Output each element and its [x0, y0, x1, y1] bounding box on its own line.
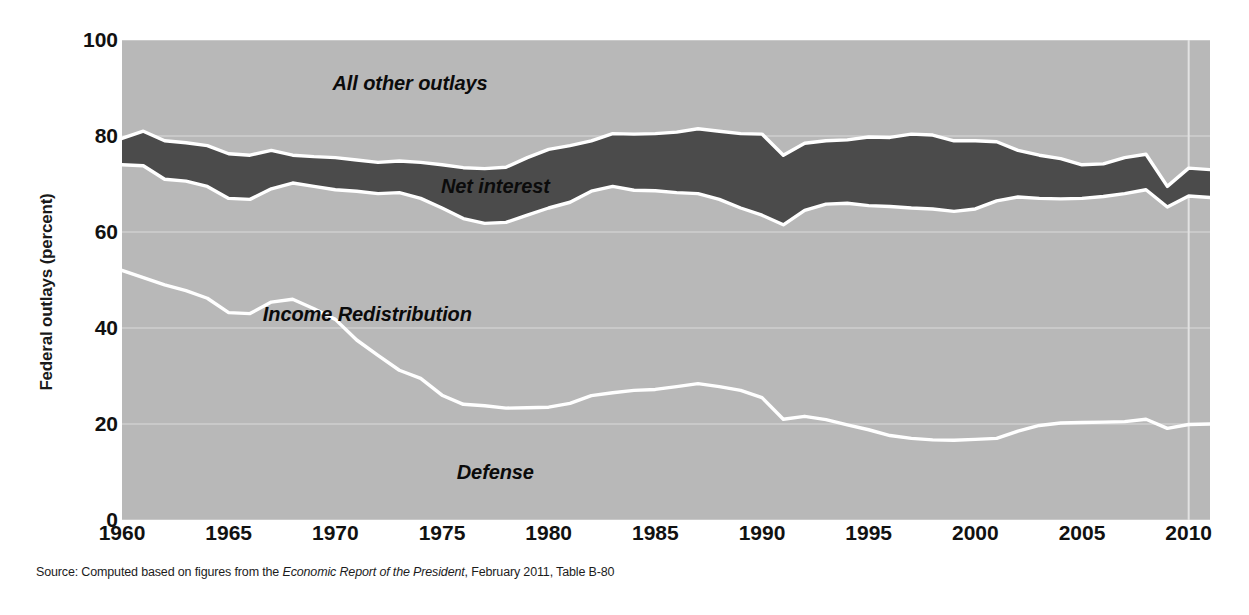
series-label-income-redistribution: Income Redistribution — [263, 302, 472, 325]
x-axis-tick-label: 2000 — [952, 522, 999, 543]
area-chart-svg — [122, 40, 1210, 520]
y-axis-title: Federal outlays (percent) — [37, 127, 57, 457]
source-note: Source: Computed based on figures from t… — [36, 565, 614, 579]
figure-container: Federal outlays (percent) 020406080100 A… — [0, 0, 1249, 615]
y-axis-tick-label: 40 — [70, 317, 118, 338]
source-prefix: Source: Computed based on figures from t… — [36, 565, 282, 579]
x-axis-tick-label: 1995 — [845, 522, 892, 543]
x-axis-tick-label: 1980 — [525, 522, 572, 543]
plot-background — [122, 40, 1210, 520]
series-label-net-interest: Net interest — [441, 175, 550, 198]
x-axis-tick-label: 1970 — [312, 522, 359, 543]
x-axis-tick-label: 2005 — [1059, 522, 1106, 543]
y-axis-tick-label: 80 — [70, 125, 118, 146]
x-axis-tick-label: 1960 — [99, 522, 146, 543]
y-axis-tick-label: 60 — [70, 221, 118, 242]
source-publication: Economic Report of the President — [282, 565, 464, 579]
x-axis-tick-label: 1965 — [205, 522, 252, 543]
x-axis-tick-label: 1985 — [632, 522, 679, 543]
plot-area: All other outlaysNet interestIncome Redi… — [122, 40, 1210, 520]
x-axis-tick-label: 1975 — [419, 522, 466, 543]
x-axis-tick-label: 2010 — [1165, 522, 1212, 543]
source-suffix: , February 2011, Table B-80 — [465, 565, 615, 579]
series-label-all-other-outlays: All other outlays — [333, 72, 488, 95]
y-axis-tick-label: 100 — [70, 29, 118, 50]
series-label-defense: Defense — [457, 461, 534, 484]
x-axis-tick-group: 1960196519701975198019851990199520002005… — [0, 514, 1249, 548]
y-axis-tick-label: 20 — [70, 413, 118, 434]
x-axis-tick-label: 1990 — [739, 522, 786, 543]
